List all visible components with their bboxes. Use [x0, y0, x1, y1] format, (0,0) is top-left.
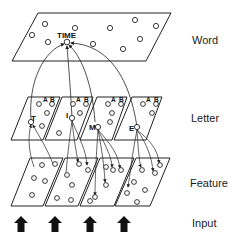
input-arrow-4 — [117, 216, 131, 232]
svg-text:I: I — [66, 111, 68, 120]
input-arrow-3 — [83, 216, 97, 232]
word-nodes — [29, 17, 158, 51]
svg-text:A: A — [146, 96, 151, 103]
label-word: Word — [192, 34, 218, 46]
interactive-activation-diagram: TIME AB AB AB AB T I M E — [0, 0, 236, 244]
word-node-label: TIME — [57, 31, 77, 40]
svg-text:T: T — [31, 114, 36, 123]
svg-text:A: A — [43, 96, 48, 103]
label-feature: Feature — [190, 177, 228, 189]
input-arrow-1 — [14, 216, 28, 232]
svg-text:M: M — [89, 123, 96, 132]
svg-text:B: B — [119, 96, 124, 103]
svg-text:A: A — [76, 96, 81, 103]
svg-text:A: A — [111, 96, 116, 103]
word-layer: TIME — [12, 13, 171, 61]
input-arrow-2 — [48, 216, 62, 232]
svg-text:B: B — [154, 96, 159, 103]
word-plane — [12, 13, 171, 61]
label-letter: Letter — [191, 112, 219, 124]
label-input: Input — [192, 217, 216, 229]
svg-text:B: B — [84, 96, 89, 103]
svg-text:E: E — [129, 124, 135, 133]
word-node-time — [64, 39, 70, 45]
svg-text:B: B — [50, 96, 55, 103]
input-arrows — [14, 216, 131, 232]
